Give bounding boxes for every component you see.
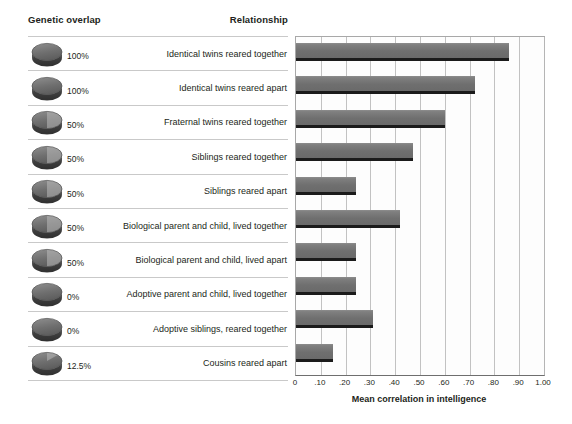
bar-row xyxy=(296,204,544,237)
bar xyxy=(296,344,333,362)
genetic-overlap-value: 50% xyxy=(67,149,84,164)
genetic-overlap-value: 50% xyxy=(67,253,84,268)
gridline xyxy=(544,37,545,375)
bar-row xyxy=(296,37,544,70)
x-axis-tick-label: .50 xyxy=(413,378,424,387)
bar-row xyxy=(296,104,544,137)
genetic-overlap-disc-icon xyxy=(30,247,64,273)
genetic-overlap-value: 100% xyxy=(67,46,89,61)
bar-row xyxy=(296,338,544,371)
relationship-label: Biological parent and child, lived apart xyxy=(84,255,288,265)
genetic-overlap-value: 0% xyxy=(67,321,79,336)
bar-row xyxy=(296,171,544,204)
x-axis-title: Mean correlation in intelligence xyxy=(295,394,543,404)
genetic-overlap-value: 100% xyxy=(67,81,89,96)
bar xyxy=(296,43,509,61)
genetic-overlap-disc-icon xyxy=(30,213,64,239)
x-axis-tick-label: .80 xyxy=(488,378,499,387)
table-row: 100%Identical twins reared apart xyxy=(28,70,288,104)
bar-row xyxy=(296,237,544,270)
bar xyxy=(296,110,445,128)
table-row: 0%Adoptive siblings, reared together xyxy=(28,311,288,345)
bar xyxy=(296,277,356,295)
column-header-relationship: Relationship xyxy=(230,14,288,25)
column-header-genetic-overlap: Genetic overlap xyxy=(28,14,101,25)
relationship-label: Fraternal twins reared together xyxy=(84,117,288,127)
bar xyxy=(296,310,373,328)
genetic-overlap-disc-icon xyxy=(30,75,64,101)
genetic-overlap-disc-icon xyxy=(30,350,64,376)
genetic-overlap-value: 12.5% xyxy=(67,356,91,371)
bar xyxy=(296,177,356,195)
chart-figure: Genetic overlap Relationship 100%Identic… xyxy=(0,0,572,424)
table-rows: 100%Identical twins reared together100%I… xyxy=(28,36,288,381)
genetic-overlap-value: 50% xyxy=(67,184,84,199)
x-axis-tick-label: .90 xyxy=(513,378,524,387)
relationship-label: Siblings reared apart xyxy=(84,186,288,196)
x-axis-tick-label: 1.00 xyxy=(535,378,551,387)
bar-row xyxy=(296,70,544,103)
relationship-label: Biological parent and child, lived toget… xyxy=(84,221,288,231)
x-axis-tick-label: .70 xyxy=(463,378,474,387)
table-row: 50%Fraternal twins reared together xyxy=(28,105,288,139)
table-row: 50%Siblings reared together xyxy=(28,139,288,173)
relationship-label: Siblings reared together xyxy=(84,152,288,162)
relationship-label: Adoptive parent and child, lived togethe… xyxy=(79,289,288,299)
bar-row xyxy=(296,271,544,304)
genetic-overlap-disc-icon xyxy=(30,281,64,307)
bar xyxy=(296,243,356,261)
genetic-overlap-disc-icon xyxy=(30,316,64,342)
bar xyxy=(296,143,413,161)
x-axis-tick-label: 0 xyxy=(293,378,297,387)
relationship-label: Cousins reared apart xyxy=(91,358,288,368)
table-row: 0%Adoptive parent and child, lived toget… xyxy=(28,277,288,311)
table-row: 50%Biological parent and child, lived ap… xyxy=(28,242,288,276)
x-axis-tick-label: .20 xyxy=(339,378,350,387)
genetic-overlap-disc-icon xyxy=(30,41,64,67)
genetic-overlap-disc-icon xyxy=(30,144,64,170)
x-axis-tick-label: .30 xyxy=(364,378,375,387)
table-row: 12.5%Cousins reared apart xyxy=(28,346,288,381)
x-axis-tick-label: .40 xyxy=(389,378,400,387)
genetic-overlap-disc-icon xyxy=(30,109,64,135)
bar-row xyxy=(296,137,544,170)
genetic-overlap-value: 0% xyxy=(67,287,79,302)
bar-chart: Mean correlation in intelligence 0.10.20… xyxy=(292,0,572,424)
x-axis-tick-label: .10 xyxy=(314,378,325,387)
genetic-overlap-value: 50% xyxy=(67,218,84,233)
relationship-label: Identical twins reared together xyxy=(89,49,288,59)
bar-row xyxy=(296,304,544,337)
relationship-label: Identical twins reared apart xyxy=(89,83,288,93)
table-row: 100%Identical twins reared together xyxy=(28,36,288,70)
table-column-headers: Genetic overlap Relationship xyxy=(28,14,288,30)
bar xyxy=(296,210,400,228)
bar xyxy=(296,76,475,94)
table-row: 50%Biological parent and child, lived to… xyxy=(28,208,288,242)
relationship-table: Genetic overlap Relationship 100%Identic… xyxy=(0,0,292,424)
relationship-label: Adoptive siblings, reared together xyxy=(79,324,288,334)
table-row: 50%Siblings reared apart xyxy=(28,174,288,208)
plot-area xyxy=(295,36,545,376)
genetic-overlap-disc-icon xyxy=(30,178,64,204)
genetic-overlap-value: 50% xyxy=(67,115,84,130)
x-axis-tick-label: .60 xyxy=(438,378,449,387)
